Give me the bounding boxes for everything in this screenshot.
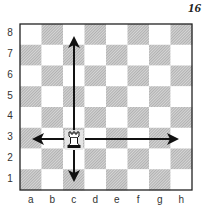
square-g8 [149, 24, 171, 45]
square-a8 [20, 24, 42, 45]
square-d8 [85, 24, 107, 45]
square-g6 [149, 66, 171, 87]
square-e2 [106, 149, 128, 170]
square-b6 [42, 66, 64, 87]
square-g7 [149, 45, 171, 66]
square-f7 [128, 45, 150, 66]
square-e1 [106, 169, 128, 190]
file-label: g [154, 194, 166, 205]
square-h7 [171, 45, 193, 66]
square-b4 [42, 107, 64, 128]
square-d1 [85, 169, 107, 190]
rank-label: 2 [4, 152, 16, 163]
square-d2 [85, 149, 107, 170]
square-e6 [106, 66, 128, 87]
rank-label: 4 [4, 110, 16, 121]
rook-icon [65, 130, 83, 150]
square-h8 [171, 24, 193, 45]
square-h4 [171, 107, 193, 128]
file-label: h [175, 194, 187, 205]
rank-label: 3 [4, 131, 16, 142]
file-label: a [25, 194, 37, 205]
square-a2 [20, 149, 42, 170]
square-e4 [106, 107, 128, 128]
square-h2 [171, 149, 193, 170]
rank-label: 8 [4, 27, 16, 38]
square-b1 [42, 169, 64, 190]
square-f4 [128, 107, 150, 128]
square-a4 [20, 107, 42, 128]
rank-label: 6 [4, 69, 16, 80]
chess-board [0, 0, 207, 214]
square-h6 [171, 66, 193, 87]
file-label: e [111, 194, 123, 205]
rank-label: 5 [4, 90, 16, 101]
square-d5 [85, 86, 107, 107]
square-e8 [106, 24, 128, 45]
board-squares [20, 24, 192, 190]
square-b2 [42, 149, 64, 170]
square-b7 [42, 45, 64, 66]
square-f1 [128, 169, 150, 190]
file-label: d [89, 194, 101, 205]
square-d7 [85, 45, 107, 66]
square-e5 [106, 86, 128, 107]
square-b8 [42, 24, 64, 45]
file-label: b [46, 194, 58, 205]
square-b5 [42, 86, 64, 107]
square-f8 [128, 24, 150, 45]
square-g5 [149, 86, 171, 107]
square-e7 [106, 45, 128, 66]
square-f6 [128, 66, 150, 87]
square-f5 [128, 86, 150, 107]
square-a1 [20, 169, 42, 190]
square-g4 [149, 107, 171, 128]
square-d4 [85, 107, 107, 128]
square-g1 [149, 169, 171, 190]
square-h5 [171, 86, 193, 107]
square-a6 [20, 66, 42, 87]
rank-label: 1 [4, 173, 16, 184]
square-d6 [85, 66, 107, 87]
square-a7 [20, 45, 42, 66]
square-a5 [20, 86, 42, 107]
rank-label: 7 [4, 48, 16, 59]
file-label: f [132, 194, 144, 205]
square-f2 [128, 149, 150, 170]
square-h1 [171, 169, 193, 190]
square-g2 [149, 149, 171, 170]
file-label: c [68, 194, 80, 205]
